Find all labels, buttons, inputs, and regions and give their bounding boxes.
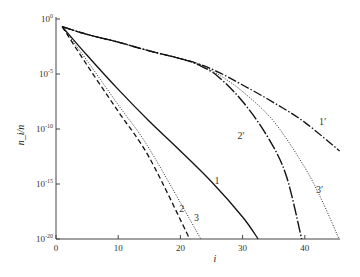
series-label: 3: [194, 212, 199, 223]
x-tick-label: 10: [114, 243, 124, 253]
y-tick-exponent: -10: [45, 123, 53, 129]
y-tick-label: 100: [41, 13, 53, 24]
chart: 010203040 10010-510-1010-1510-20 1231′2′…: [0, 0, 360, 277]
series-1prime-line: [62, 27, 339, 151]
y-tick-exponent: -5: [48, 68, 53, 74]
y-tick-label: 10-10: [36, 123, 53, 134]
y-tick-exponent: -15: [45, 178, 53, 184]
series-label: 1′: [319, 116, 326, 127]
series-2-line: [62, 27, 190, 239]
series-label: 2′: [238, 130, 245, 141]
y-tick-label: 10-20: [36, 233, 53, 244]
y-axis-title-group: n_i/n: [15, 125, 26, 146]
x-tick-label: 20: [176, 243, 186, 253]
y-tick-label: 10-15: [36, 178, 53, 189]
x-axis-title: i: [214, 253, 217, 264]
x-tick-label: 0: [54, 243, 59, 253]
y-axis-title: n_i/n: [15, 125, 26, 146]
x-tick-label: 30: [238, 243, 248, 253]
series-label: 2: [179, 203, 184, 214]
axes: [56, 17, 340, 239]
series-3prime-line: [62, 27, 339, 239]
y-tick-label: 10-5: [39, 68, 53, 79]
y-tick-exponent: -20: [45, 233, 53, 239]
series-label: 3′: [316, 184, 323, 195]
x-tick-label: 40: [300, 243, 310, 253]
y-tick-exponent: 0: [50, 13, 53, 19]
series-1-line: [62, 27, 258, 239]
series-label: 1: [215, 175, 220, 186]
